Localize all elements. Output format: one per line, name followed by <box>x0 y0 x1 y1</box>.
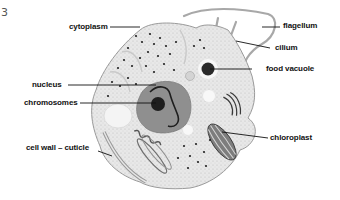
label-cytoplasm: cytoplasm <box>69 22 108 31</box>
label-food-vacuole: food vacuole <box>266 64 314 73</box>
label-cilium: cilium <box>275 43 298 52</box>
label-nucleus: nucleus <box>32 80 62 89</box>
label-flagellum: flagellum <box>283 21 317 30</box>
label-cell-wall-cuticle: cell wall – cuticle <box>26 143 89 152</box>
diagram-canvas: 3 cytoplasm flagellum cilium food vacuol… <box>0 0 340 200</box>
figure-number: 3 <box>1 6 8 19</box>
label-chloroplast: chloroplast <box>270 133 312 142</box>
label-chromosomes: chromosomes <box>24 98 78 107</box>
